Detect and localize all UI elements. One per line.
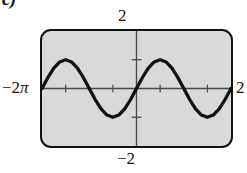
graphing-window <box>40 29 233 148</box>
x-max-label: 2 <box>236 79 245 96</box>
plot-svg <box>42 31 231 146</box>
graph-figure: c) 2 −2 −2π 2 <box>0 0 247 173</box>
y-min-label: −2 <box>117 150 135 167</box>
x-min-label: −2π <box>2 79 29 96</box>
x-min-number: −2 <box>2 78 20 97</box>
y-max-label: 2 <box>118 7 127 24</box>
part-label: c) <box>2 0 16 8</box>
pi-symbol: π <box>20 78 29 97</box>
